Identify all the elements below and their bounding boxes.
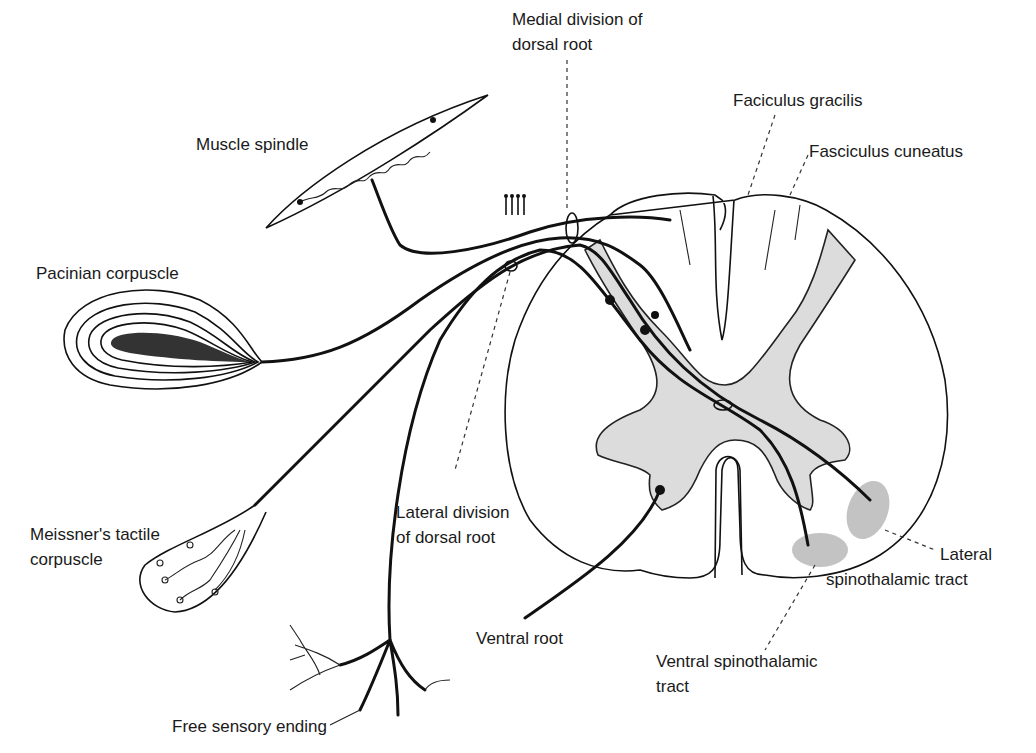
label-medial-division-line1: Medial division of: [512, 10, 643, 29]
label-lateral-division-line2: of dorsal root: [396, 528, 495, 547]
label-medial-division-line2: dorsal root: [512, 35, 593, 54]
label-ventral-spinothalamic-line2: tract: [656, 677, 689, 696]
dorsal-column-line: [795, 205, 800, 240]
label-fasciculus-gracilis: Faciculus gracilis: [733, 91, 862, 110]
spinal-cord-section: [505, 193, 947, 578]
dorsal-median-septum: [713, 196, 734, 340]
label-muscle-spindle: Muscle spindle: [196, 135, 308, 154]
dorsal-column-line: [765, 210, 775, 270]
label-lateral-spinothalamic-line2: spinothalamic tract: [826, 570, 968, 589]
label-ventral-spinothalamic-line1: Ventral spinothalamic: [656, 652, 818, 671]
sensory-pathway-diagram: Muscle spindle Pacinian corpuscle Meissn…: [0, 0, 1036, 753]
label-meissner-line2: corpuscle: [30, 550, 103, 569]
dorsal-column-line: [680, 210, 690, 265]
label-fasciculus-cuneatus: Fasciculus cuneatus: [809, 142, 963, 161]
label-lateral-division-line1: Lateral division: [396, 503, 509, 522]
lateral-spinothalamic-tract: [839, 475, 897, 545]
label-lateral-spinothalamic-line1: Lateral: [940, 545, 992, 564]
label-free-sensory-ending: Free sensory ending: [172, 717, 327, 736]
label-pacinian-corpuscle: Pacinian corpuscle: [36, 264, 179, 283]
free-sensory-ending: [290, 625, 450, 725]
ventral-spinothalamic-tract: [792, 533, 848, 567]
label-ventral-root: Ventral root: [476, 629, 563, 648]
label-meissner-line1: Meissner's tactile: [30, 525, 160, 544]
pacinian-corpuscle: [64, 290, 262, 389]
muscle-spindle: [266, 95, 488, 228]
grey-matter: [585, 230, 855, 510]
meissner-corpuscle: [140, 505, 266, 612]
